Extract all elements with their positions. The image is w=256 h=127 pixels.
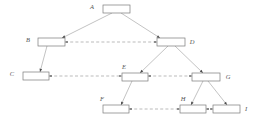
solid-edge-d-g (175, 46, 203, 73)
node-label-b: B (26, 36, 30, 43)
node-box-d[interactable] (157, 38, 185, 46)
node-c[interactable]: C (10, 70, 49, 80)
arrowhead-dashed-h-to-i-end (210, 108, 213, 110)
node-label-d: D (189, 38, 195, 45)
arrowhead-dashed-h-to-i-start (206, 108, 209, 110)
node-label-i: I (244, 105, 248, 112)
arrowhead-dashed-f-to-h-end (177, 108, 180, 110)
arrowhead-dashed-b-to-d-start (65, 41, 68, 43)
node-b[interactable]: B (26, 36, 65, 46)
solid-edge-e-f (121, 81, 132, 105)
nodes-group: ABDCEGFHI (10, 3, 248, 113)
solid-edge-a-d (121, 13, 160, 38)
node-label-h: H (180, 95, 186, 102)
node-label-c: C (10, 70, 15, 77)
node-box-c[interactable] (23, 72, 49, 80)
arrowheads-group (39, 35, 228, 110)
arrowhead-dashed-b-to-d-end (154, 41, 157, 43)
node-i[interactable]: I (213, 105, 248, 113)
node-box-h[interactable] (180, 105, 206, 113)
node-label-f: F (99, 95, 105, 102)
node-g[interactable]: G (192, 73, 231, 81)
arrowhead-dashed-c-to-e-end (119, 75, 122, 77)
diagram-svg: ABDCEGFHI (0, 0, 256, 127)
solid-edge-a-b (62, 13, 112, 38)
node-e[interactable]: E (121, 63, 148, 81)
node-box-f[interactable] (103, 105, 129, 113)
node-a[interactable]: A (89, 3, 130, 13)
arrowhead-dashed-e-to-g-start (148, 75, 151, 77)
arrowhead-dashed-e-to-g-end (189, 75, 192, 77)
node-d[interactable]: D (157, 38, 195, 46)
solid-edge-g-h (191, 81, 203, 105)
diagram-canvas: ABDCEGFHI (0, 0, 256, 127)
solid-edge-g-i (208, 81, 227, 105)
node-label-g: G (226, 73, 231, 80)
arrowhead-dashed-f-to-h-start (129, 108, 132, 110)
solid-edges-group (40, 13, 227, 105)
node-box-e[interactable] (122, 73, 148, 81)
solid-edge-b-c (40, 46, 47, 72)
node-box-a[interactable] (103, 5, 130, 13)
node-box-i[interactable] (213, 105, 240, 113)
node-h[interactable]: H (180, 95, 206, 113)
node-box-b[interactable] (38, 38, 65, 46)
solid-edge-d-e (140, 46, 168, 73)
node-box-g[interactable] (192, 73, 220, 81)
node-label-e: E (121, 63, 126, 70)
arrowhead-dashed-c-to-e-start (49, 75, 52, 77)
node-label-a: A (89, 3, 94, 10)
